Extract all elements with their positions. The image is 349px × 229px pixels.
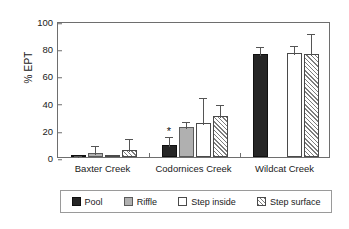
y-axis-tick-label: 80 bbox=[42, 45, 58, 55]
error-bar-line bbox=[169, 137, 170, 147]
significance-marker: * bbox=[167, 126, 171, 137]
error-bar-line bbox=[203, 98, 204, 125]
y-axis-tick-40: 40 bbox=[42, 100, 58, 110]
y-axis-tick-label: 20 bbox=[42, 127, 58, 137]
x-axis-label-baxter-creek: Baxter Creek bbox=[75, 163, 130, 174]
error-bar-cap bbox=[125, 139, 133, 140]
bar-stepinside-wildcat-creek bbox=[287, 53, 302, 157]
x-axis-label-wildcat-creek: Wildcat Creek bbox=[255, 163, 314, 174]
error-bar-cap bbox=[307, 34, 315, 35]
legend-entry-step-inside: Step inside bbox=[178, 197, 236, 207]
x-axis-label-codornices-creek: Codornices Creek bbox=[155, 163, 231, 174]
legend-entry-riffle: Riffle bbox=[124, 197, 157, 207]
bar-stepinside-codornices-creek bbox=[196, 123, 211, 157]
legend-label: Riffle bbox=[137, 197, 157, 207]
plot-area: 020406080100* bbox=[57, 22, 330, 158]
y-axis-tick-100: 100 bbox=[37, 18, 58, 28]
y-axis-tick-label: 0 bbox=[48, 154, 58, 164]
y-axis-tick-mark bbox=[58, 50, 62, 51]
bar-chart-figure: % EPT 020406080100* Baxter CreekCodornic… bbox=[0, 0, 349, 229]
riffle-swatch bbox=[124, 197, 133, 206]
bar-stepsurface-codornices-creek bbox=[213, 116, 228, 157]
error-bar-line bbox=[129, 139, 130, 152]
y-axis-tick-80: 80 bbox=[42, 45, 58, 55]
pool-swatch bbox=[72, 197, 81, 206]
y-axis-tick-label: 100 bbox=[37, 18, 58, 28]
x-axis-group-separator bbox=[149, 153, 150, 157]
error-bar-cap bbox=[91, 146, 99, 147]
y-axis-tick-mark bbox=[58, 23, 62, 24]
error-bar-cap bbox=[216, 105, 224, 106]
bar-stepsurface-wildcat-creek bbox=[304, 54, 319, 157]
error-bar-cap bbox=[165, 137, 173, 138]
legend-label: Step inside bbox=[191, 197, 236, 207]
y-axis-tick-60: 60 bbox=[42, 73, 58, 83]
y-axis-tick-20: 20 bbox=[42, 127, 58, 137]
y-axis-tick-0: 0 bbox=[48, 154, 58, 164]
error-bar-line bbox=[220, 105, 221, 119]
error-bar-cap bbox=[290, 46, 298, 47]
y-axis-title: % EPT bbox=[23, 38, 34, 98]
y-axis-tick-label: 40 bbox=[42, 100, 58, 110]
error-bar-line bbox=[95, 146, 96, 155]
y-axis-tick-label: 60 bbox=[42, 73, 58, 83]
legend-label: Pool bbox=[85, 197, 103, 207]
x-axis-group-separator bbox=[240, 153, 241, 157]
error-bar-line bbox=[311, 34, 312, 56]
error-bar-line bbox=[260, 47, 261, 56]
y-axis-tick-mark bbox=[58, 77, 62, 78]
bar-riffle-codornices-creek bbox=[179, 127, 194, 157]
error-bar-cap bbox=[256, 47, 264, 48]
error-bar-cap bbox=[74, 156, 82, 157]
legend-entry-pool: Pool bbox=[72, 197, 103, 207]
bar-stepinside-baxter-creek bbox=[105, 155, 120, 157]
legend-entry-step-surface: Step surface bbox=[257, 197, 321, 207]
step-surface-swatch bbox=[257, 197, 266, 206]
error-bar-line bbox=[294, 46, 295, 55]
y-axis-tick-mark bbox=[58, 105, 62, 106]
step-inside-swatch bbox=[178, 197, 187, 206]
error-bar-cap bbox=[182, 122, 190, 123]
legend-label: Step surface bbox=[270, 197, 321, 207]
chart-legend: PoolRiffleStep insideStep surface bbox=[60, 190, 332, 213]
y-axis-tick-mark bbox=[58, 132, 62, 133]
bar-pool-wildcat-creek bbox=[253, 54, 268, 157]
error-bar-line bbox=[186, 122, 187, 129]
error-bar-cap bbox=[199, 98, 207, 99]
y-axis-tick-mark bbox=[58, 159, 62, 160]
